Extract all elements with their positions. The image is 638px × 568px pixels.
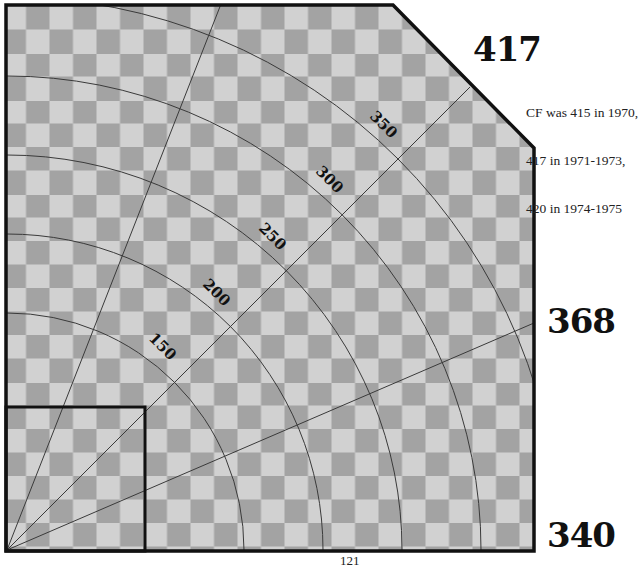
- right-field-line-distance: 340: [547, 518, 615, 552]
- right-center-distance: 368: [547, 304, 615, 338]
- note-line: 417 in 1971-1973,: [526, 153, 638, 169]
- note-line: CF was 415 in 1970,: [526, 105, 638, 121]
- note-line: 420 in 1974-1975: [526, 201, 638, 217]
- page-number: 121: [340, 554, 360, 567]
- center-field-note: CF was 415 in 1970, 417 in 1971-1973, 42…: [526, 73, 638, 233]
- outfield-grass: [6, 5, 534, 551]
- center-field-distance: 417: [473, 32, 541, 66]
